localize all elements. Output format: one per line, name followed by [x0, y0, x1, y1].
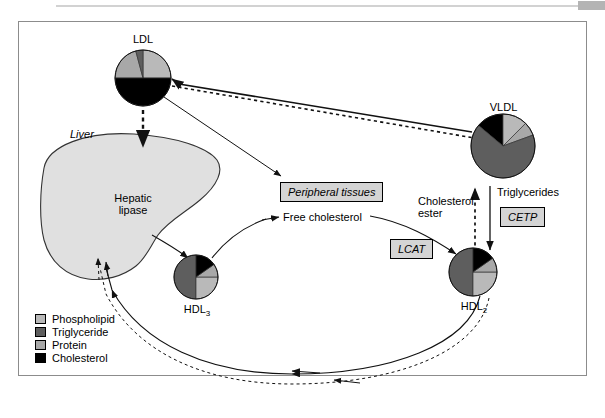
- legend-item: Triglyceride: [35, 326, 140, 338]
- legend-swatch-phospholipid: [35, 314, 46, 324]
- legend-item: Phospholipid: [35, 313, 140, 325]
- legend-label: Triglyceride: [52, 327, 108, 338]
- liver-label: Liver: [70, 128, 94, 140]
- hdl2-label-subscript: 2: [483, 306, 487, 315]
- cholesterol-ester-line2: ester: [418, 207, 474, 219]
- legend-swatch-cholesterol: [35, 353, 46, 363]
- ldl-label: LDL: [123, 33, 163, 45]
- legend: PhospholipidTriglycerideProteinCholester…: [35, 313, 140, 365]
- hdl2-slice-triglyceride: [449, 248, 473, 296]
- ldl-slice-cholesterol: [115, 78, 171, 106]
- arrow-hdl2-to-liver-solid: [106, 268, 480, 374]
- hdl2-pie: [448, 247, 498, 297]
- legend-item: Cholesterol: [35, 352, 140, 364]
- lcat-box[interactable]: LCAT: [390, 239, 433, 259]
- arrow-free-cholesterol-head: [262, 217, 279, 220]
- peripheral-tissues-box[interactable]: Peripheral tissues: [280, 182, 383, 202]
- legend-swatch-protein: [35, 340, 46, 350]
- ldl-pie: [114, 49, 172, 107]
- free-cholesterol-label: Free cholesterol: [283, 211, 362, 223]
- legend-label: Phospholipid: [52, 314, 115, 325]
- vldl-pie: [470, 113, 536, 179]
- arrow-ldl-to-vldl-dashed: [172, 86, 474, 138]
- hdl2-label-text: HDL: [461, 300, 483, 312]
- triglycerides-label: Triglycerides: [497, 186, 559, 198]
- cetp-box[interactable]: CETP: [500, 207, 545, 227]
- arrow-hdl2-return-head: [292, 371, 320, 373]
- hdl3-label: HDL3: [168, 303, 226, 317]
- legend-item: Protein: [35, 339, 140, 351]
- hepatic-lipase-line2: lipase: [100, 204, 166, 216]
- legend-swatch-triglyceride: [35, 327, 46, 337]
- cholesterol-ester-line1: Cholesterol: [418, 195, 474, 207]
- legend-label: Protein: [52, 340, 87, 351]
- hdl3-slice-triglyceride: [174, 255, 196, 299]
- arrow-hdl3-to-free-cholesterol: [212, 219, 266, 258]
- hdl3-pie: [173, 254, 219, 300]
- vldl-label: VLDL: [481, 101, 526, 113]
- legend-label: Cholesterol: [52, 353, 108, 364]
- hepatic-lipase-line1: Hepatic: [100, 192, 166, 204]
- hdl2-label: HDL2: [445, 300, 503, 314]
- arrow-hdl2-to-liver-dashed: [100, 268, 489, 384]
- cholesterol-ester-label: Cholesterol ester: [418, 195, 474, 219]
- hdl3-label-text: HDL: [184, 303, 206, 315]
- hdl3-label-subscript: 3: [206, 309, 210, 318]
- arrow-vldl-to-ldl: [172, 79, 472, 132]
- hepatic-lipase-label: Hepatic lipase: [100, 192, 166, 216]
